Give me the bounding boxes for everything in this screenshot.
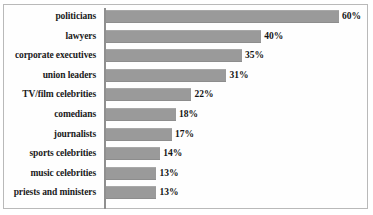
- bar-track: [106, 108, 176, 121]
- bar: [106, 10, 339, 23]
- bar: [106, 108, 176, 121]
- bar-category-label: union leaders: [0, 69, 96, 82]
- bar: [106, 186, 156, 199]
- bar-rows-container: politicians60%lawyers40%corporate execut…: [4, 10, 367, 206]
- bar-value-label: 14%: [160, 147, 182, 160]
- bar-track: [106, 186, 156, 199]
- bar-category-label: journalists: [0, 128, 96, 141]
- bar-value-label: 17%: [172, 128, 194, 141]
- bar: [106, 30, 261, 43]
- bar-row: comedians18%: [4, 108, 367, 128]
- bar-category-label: sports celebrities: [0, 147, 96, 160]
- bar-row: sports celebrities14%: [4, 147, 367, 167]
- bar-track: [106, 49, 242, 62]
- bar-track: [106, 88, 191, 101]
- bar-category-label: music celebrities: [0, 167, 96, 180]
- bar-chart-plot-area: politicians60%lawyers40%corporate execut…: [4, 5, 367, 208]
- bar-category-label: lawyers: [0, 30, 96, 43]
- bar-track: [106, 30, 261, 43]
- bar-category-label: TV/film celebrities: [0, 88, 96, 101]
- bar-value-label: 22%: [191, 88, 213, 101]
- bar: [106, 88, 191, 101]
- bar-category-label: comedians: [0, 108, 96, 121]
- bar-value-label: 13%: [156, 186, 178, 199]
- bar: [106, 167, 156, 180]
- bar: [106, 147, 160, 160]
- bar-value-label: 60%: [339, 10, 361, 23]
- bar-track: [106, 147, 160, 160]
- bar-row: politicians60%: [4, 10, 367, 30]
- bar-value-label: 18%: [176, 108, 198, 121]
- bar: [106, 49, 242, 62]
- bar-value-label: 31%: [226, 69, 248, 82]
- bar: [106, 69, 226, 82]
- bar-row: lawyers40%: [4, 30, 367, 50]
- bar-row: priests and ministers13%: [4, 186, 367, 206]
- bar-category-label: priests and ministers: [0, 186, 96, 199]
- bar-row: music celebrities13%: [4, 167, 367, 187]
- chart-frame: politicians60%lawyers40%corporate execut…: [3, 4, 368, 209]
- bar-value-label: 35%: [242, 49, 264, 62]
- bar-row: journalists17%: [4, 128, 367, 148]
- bar-track: [106, 167, 156, 180]
- bar-value-label: 13%: [156, 167, 178, 180]
- bar-track: [106, 10, 339, 23]
- bar-row: corporate executives35%: [4, 49, 367, 69]
- bar: [106, 128, 172, 141]
- bar-row: TV/film celebrities22%: [4, 88, 367, 108]
- bar-category-label: corporate executives: [0, 49, 96, 62]
- bar-category-label: politicians: [0, 10, 96, 23]
- bar-row: union leaders31%: [4, 69, 367, 89]
- bar-track: [106, 69, 226, 82]
- bar-track: [106, 128, 172, 141]
- bar-value-label: 40%: [261, 30, 283, 43]
